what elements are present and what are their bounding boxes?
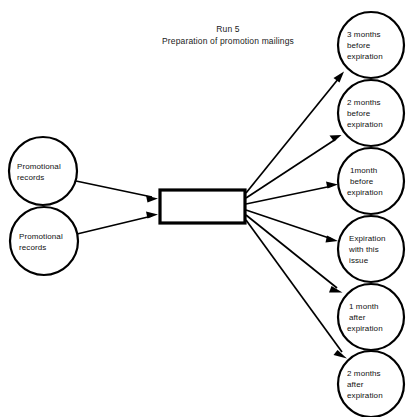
- output-4-line-3: issue: [349, 256, 369, 265]
- output-6-line-2: after: [347, 380, 364, 389]
- output-2-line-2: before: [347, 109, 371, 118]
- input-1-circle: [9, 137, 77, 205]
- output-1-line-2: before: [347, 41, 371, 50]
- input-2-circle: [10, 207, 78, 275]
- output-6-line-3: expiration: [347, 391, 383, 400]
- output-2-line-1: 2 months: [347, 98, 381, 107]
- connector-input-1: [76, 181, 158, 203]
- output-3-line-1: 1month: [350, 166, 377, 175]
- title-line-1: Run 5: [216, 24, 240, 34]
- diagram-canvas: Run 5 Preparation of promotion mailings: [0, 0, 408, 417]
- input-2-line-1: Promotional: [19, 232, 63, 241]
- connector-output-2: [246, 135, 342, 198]
- output-5-line-3: expiration: [347, 324, 383, 333]
- node-input-1[interactable]: Promotional records: [9, 137, 77, 205]
- title-line-2: Preparation of promotion mailings: [162, 36, 294, 46]
- output-2-line-3: expiration: [347, 120, 383, 129]
- output-4-line-1: Expiration: [349, 234, 386, 243]
- node-output-2[interactable]: 2 months before expiration: [338, 80, 404, 146]
- connector-group-outputs: [246, 72, 347, 359]
- node-output-4[interactable]: Expiration with this issue: [338, 216, 404, 282]
- connector-output-1: [246, 72, 344, 194]
- output-4-line-2: with this: [348, 245, 379, 254]
- input-1-line-1: Promotional: [17, 162, 61, 171]
- process-box-rect: [160, 190, 245, 223]
- output-1-line-1: 3 months: [347, 30, 381, 39]
- output-6-line-1: 2 months: [347, 369, 381, 378]
- connector-output-3: [246, 182, 338, 205]
- output-3-line-3: expiration: [347, 188, 383, 197]
- node-output-3[interactable]: 1month before expiration: [338, 148, 404, 214]
- connector-group-inputs: [76, 181, 158, 234]
- diagram-title: Run 5 Preparation of promotion mailings: [162, 24, 294, 46]
- output-5-line-1: 1 month: [349, 302, 379, 311]
- output-5-circle: [338, 284, 404, 350]
- flowchart: Run 5 Preparation of promotion mailings: [0, 0, 408, 417]
- output-1-line-3: expiration: [347, 52, 383, 61]
- node-output-6[interactable]: 2 months after expiration: [338, 351, 404, 417]
- connector-input-2: [77, 212, 158, 235]
- node-output-5[interactable]: 1 month after expiration: [338, 284, 404, 350]
- output-3-line-2: before: [350, 177, 374, 186]
- input-2-line-2: records: [19, 243, 46, 252]
- node-process-box[interactable]: [160, 190, 245, 223]
- node-output-1[interactable]: 3 months before expiration: [338, 12, 404, 78]
- output-5-line-2: after: [349, 313, 366, 322]
- input-1-line-2: records: [17, 173, 44, 182]
- node-input-2[interactable]: Promotional records: [10, 207, 78, 275]
